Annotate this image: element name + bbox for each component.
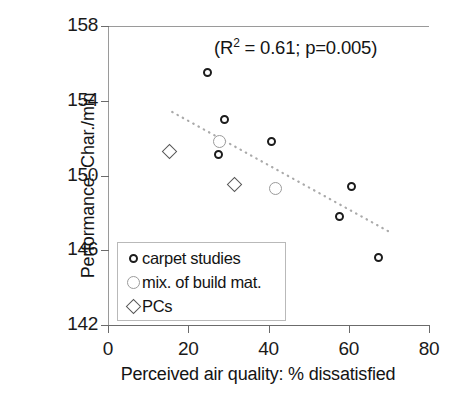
x-tick-label-0: 0 (78, 338, 138, 360)
annotation-suffix: = 0.61; p=0.005) (240, 37, 378, 58)
data-point (374, 253, 383, 262)
legend-key-glyph (127, 276, 140, 289)
legend-marker-icon (125, 274, 142, 291)
legend: carpet studiesmix. of build mat.PCs (117, 242, 286, 321)
legend-label: PCs (142, 297, 172, 316)
legend-item-1: mix. of build mat. (125, 270, 285, 294)
scatter-chart-figure: 142146150154158 020406080 Performance: C… (0, 0, 466, 407)
y-axis-label: Performance: Char./min (78, 36, 99, 336)
legend-item-2: PCs (125, 294, 285, 318)
legend-key-glyph (125, 299, 141, 315)
x-tick-label-80: 80 (399, 338, 459, 360)
x-tick-40 (269, 325, 270, 333)
x-tick-label-40: 40 (239, 338, 299, 360)
legend-label: carpet studies (142, 249, 241, 268)
x-tick-80 (429, 325, 430, 333)
legend-item-0: carpet studies (125, 246, 285, 270)
legend-marker-icon (125, 298, 142, 315)
annotation-prefix: (R (214, 37, 233, 58)
x-tick-label-20: 20 (158, 338, 218, 360)
y-tick-146 (101, 250, 109, 251)
x-axis-label: Perceived air quality: % dissatisfied (78, 364, 438, 385)
y-tick-label-158: 158 (36, 14, 98, 36)
x-tick-60 (349, 325, 350, 333)
y-tick-150 (101, 176, 109, 177)
data-point (220, 115, 229, 124)
data-point (347, 182, 356, 191)
y-tick-158 (101, 26, 109, 27)
legend-marker-icon (125, 250, 142, 267)
regression-annotation: (R2 = 0.61; p=0.005) (214, 36, 377, 59)
legend-label: mix. of build mat. (142, 273, 261, 292)
x-tick-label-60: 60 (319, 338, 379, 360)
x-tick-20 (188, 325, 189, 333)
legend-key-glyph (129, 254, 138, 263)
y-tick-154 (101, 101, 109, 102)
x-tick-0 (108, 325, 109, 333)
